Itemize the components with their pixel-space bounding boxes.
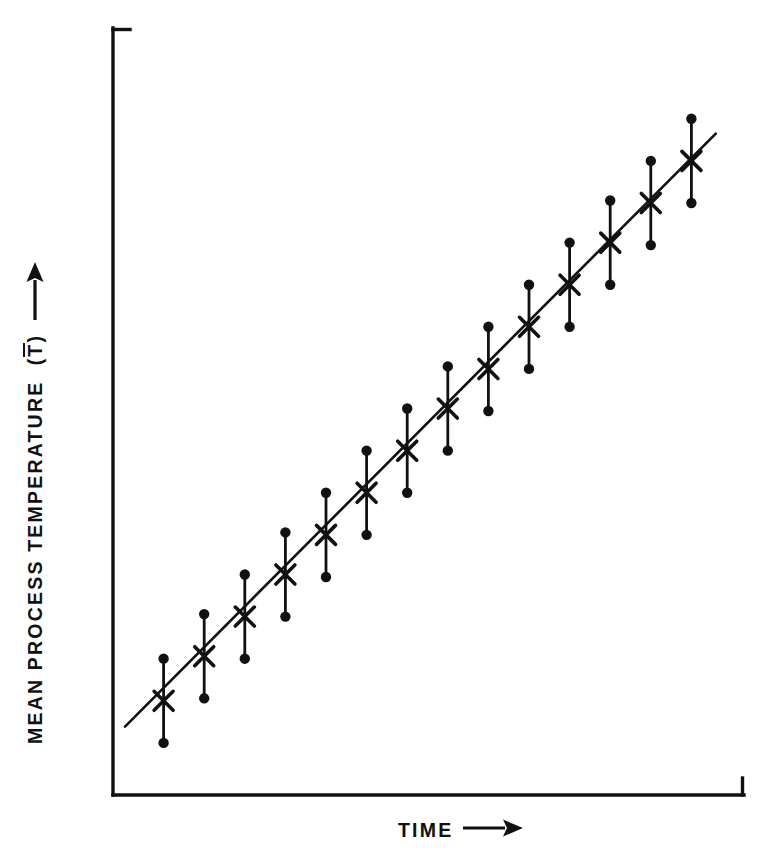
error-bar-cap-upper (280, 527, 290, 537)
error-bar-cap-lower (199, 693, 209, 703)
error-bar-cap-upper (199, 609, 209, 619)
axis-frame (113, 28, 744, 795)
data-point-group (276, 527, 295, 622)
data-point-group (560, 237, 579, 332)
trend-line (125, 134, 716, 727)
chart-figure: MEAN PROCESS TEMPERATURE (T) TIME (0, 0, 773, 862)
error-bar-cap-lower (483, 406, 493, 416)
data-point-group (682, 114, 701, 209)
error-bar-cap-lower (524, 364, 534, 374)
error-bar-cap-upper (564, 237, 574, 247)
data-point-group (357, 445, 376, 540)
error-bar-cap-upper (443, 361, 453, 371)
error-bar-cap-lower (402, 488, 412, 498)
error-bar-cap-upper (321, 488, 331, 498)
error-bar-cap-upper (483, 322, 493, 332)
error-bar-cap-lower (443, 445, 453, 455)
error-bar-cap-upper (646, 156, 656, 166)
error-bar-cap-lower (361, 530, 371, 540)
error-bar-cap-lower (564, 322, 574, 332)
error-bar-cap-lower (605, 280, 615, 290)
error-bar-cap-lower (158, 738, 168, 748)
error-bar-cap-upper (524, 280, 534, 290)
data-point-group (601, 195, 620, 290)
error-bar-cap-lower (321, 572, 331, 582)
data-point-group (195, 609, 214, 704)
data-point-group (154, 653, 173, 748)
error-bar-cap-upper (158, 653, 168, 663)
data-point-group (235, 569, 254, 664)
error-bar-cap-upper (361, 445, 371, 455)
error-bar-cap-lower (240, 653, 250, 663)
data-point-group (317, 488, 336, 583)
error-bar-cap-lower (646, 240, 656, 250)
data-point-group (641, 156, 660, 251)
chart-plot-area (0, 0, 773, 862)
error-bar-cap-lower (280, 611, 290, 621)
error-bar-cap-upper (686, 114, 696, 124)
error-bar-cap-upper (240, 569, 250, 579)
data-series-layer (125, 114, 716, 749)
error-bar-cap-upper (402, 403, 412, 413)
error-bar-cap-upper (605, 195, 615, 205)
error-bar-cap-lower (686, 198, 696, 208)
